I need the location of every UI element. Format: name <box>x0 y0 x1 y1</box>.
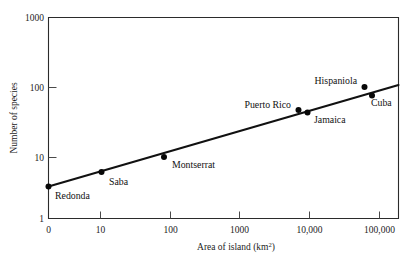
data-point-saba[interactable] <box>99 169 105 175</box>
label-puerto-rico: Puerto Rico <box>244 99 291 110</box>
x-ticklabel-10: 10 <box>96 225 106 235</box>
y-axis-ticks <box>49 88 57 158</box>
x-ticklabel-100000: 100,000 <box>364 225 395 235</box>
data-point-hispaniola[interactable] <box>362 84 368 90</box>
species-area-chart: 1000 100 10 1 0 10 100 1000 10,000 100,0… <box>0 0 414 269</box>
y-ticklabel-100: 100 <box>30 83 45 93</box>
label-montserrat: Montserrat <box>172 159 215 170</box>
data-point-redonda[interactable] <box>46 184 52 190</box>
data-point-jamaica[interactable] <box>305 110 311 116</box>
y-ticklabel-10: 10 <box>35 153 45 163</box>
x-ticklabel-10000: 10,000 <box>296 225 322 235</box>
x-axis-title-close: ) <box>272 242 275 253</box>
chart-canvas: 1000 100 10 1 0 10 100 1000 10,000 100,0… <box>0 0 414 269</box>
x-tick-labels: 0 10 100 1000 10,000 100,000 <box>46 225 395 235</box>
data-point-montserrat[interactable] <box>161 154 167 160</box>
x-ticklabel-0: 0 <box>46 225 51 235</box>
label-jamaica: Jamaica <box>314 114 346 125</box>
y-ticklabel-1000: 1000 <box>25 13 44 23</box>
x-axis-title: Area of island (km2) <box>197 241 275 253</box>
x-ticklabel-100: 100 <box>163 225 178 235</box>
label-cuba: Cuba <box>371 97 392 108</box>
x-axis-title-main: Area of island (km <box>197 242 269 253</box>
label-redonda: Redonda <box>55 190 90 201</box>
data-point-labels: Redonda Saba Montserrat Puerto Rico Jama… <box>55 75 392 201</box>
x-axis-ticks <box>101 212 380 219</box>
label-saba: Saba <box>109 176 129 187</box>
data-point-puerto-rico[interactable] <box>296 107 302 113</box>
label-hispaniola: Hispaniola <box>315 75 358 86</box>
y-axis-title: Number of species <box>9 82 19 154</box>
x-ticklabel-1000: 1000 <box>230 225 249 235</box>
y-ticklabel-1: 1 <box>39 214 44 224</box>
plot-frame <box>49 18 399 219</box>
y-tick-labels: 1000 100 10 1 <box>25 13 44 224</box>
